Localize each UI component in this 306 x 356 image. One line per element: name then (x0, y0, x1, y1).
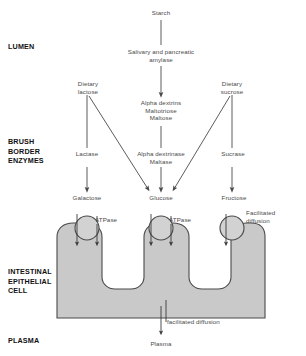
node-dietary-sucrose: Dietary sucrose (208, 80, 256, 95)
node-alpha-dextrins-maltotriose-maltose: Alpha dextrins Maltotriose Maltose (112, 99, 210, 122)
node-facilitated-diffusion: Facilitated diffusion (246, 209, 302, 224)
node-salivary-and-pancreatic-amylase: Salivary and pancreatic amylase (112, 48, 210, 63)
section-label-lumen: LUMEN (8, 42, 34, 52)
node-starch: Starch (131, 9, 191, 17)
carbohydrate-digestion-diagram: LUMEN BRUSH BORDER ENZYMES INTESTINAL EP… (0, 0, 306, 356)
node-sucrase: Sucrase (209, 150, 257, 158)
node-plasma: Plasma (132, 340, 190, 348)
node-dietary-lactose: Dietary lactose (64, 80, 112, 95)
node-fructose: Fructose (205, 194, 263, 202)
node-lactase: Lactase (63, 150, 111, 158)
node-galactose: Galactose (58, 194, 116, 202)
node-carrier-mediated-and-facilitated-diffusion: Carrier mediated and facilitated diffusi… (167, 310, 269, 325)
node-atpase-middle: ATPase (169, 216, 203, 224)
section-label-brush-border-enzymes: BRUSH BORDER ENZYMES (8, 137, 44, 166)
node-atpase-left: ATPase (95, 216, 129, 224)
transporter-circle-fructose (220, 216, 244, 240)
node-glucose-lumen: Glucose (132, 194, 190, 202)
section-label-plasma: PLASMA (8, 336, 39, 346)
node-alpha-dextrinase-maltase: Alpha dextrinase Maltase (110, 150, 212, 165)
node-glucose-cell: Glucose (132, 296, 190, 304)
section-label-intestinal-epithelial-cell: INTESTINAL EPITHELIAL CELL (8, 267, 52, 296)
intestinal-epithelial-cell-shape (57, 223, 265, 318)
